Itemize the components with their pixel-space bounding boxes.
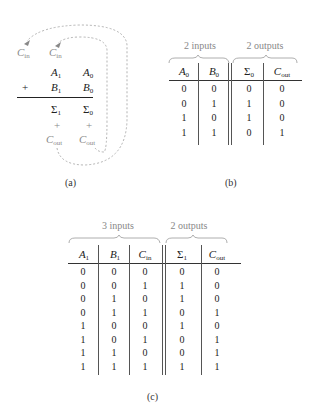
cell: 0	[104, 266, 124, 277]
header-sigma1: Σ1	[167, 248, 197, 262]
cell: 1	[172, 361, 192, 372]
header-a1: A1	[69, 248, 99, 262]
cell: 0	[104, 280, 124, 291]
col-divider-c1	[98, 245, 99, 375]
cell: 1	[73, 361, 93, 372]
cell: 1	[172, 320, 192, 331]
cell: 0	[104, 334, 124, 345]
cell: 0	[73, 307, 93, 318]
cell: 0	[207, 293, 227, 304]
cell: 1	[172, 293, 192, 304]
cell: 1	[104, 347, 124, 358]
cell: 1	[207, 361, 227, 372]
cell: 0	[104, 320, 124, 331]
cell: 0	[207, 280, 227, 291]
cell: 0	[207, 266, 227, 277]
cell: 1	[73, 320, 93, 331]
cell: 0	[172, 334, 192, 345]
cell: 1	[207, 307, 227, 318]
cell: 0	[172, 307, 192, 318]
header-rule-c	[68, 263, 241, 264]
header-cout: Cout	[199, 248, 235, 262]
col-divider-c2	[129, 245, 130, 375]
cell: 1	[135, 307, 155, 318]
cell: 1	[172, 280, 192, 291]
cell: 1	[135, 361, 155, 372]
cell: 0	[135, 293, 155, 304]
cell: 1	[207, 347, 227, 358]
cell: 0	[73, 280, 93, 291]
cell: 1	[73, 347, 93, 358]
cell: 0	[73, 293, 93, 304]
cell: 1	[207, 334, 227, 345]
col-divider-c3a	[162, 245, 163, 375]
col-divider-c4	[201, 245, 202, 375]
cell: 1	[73, 334, 93, 345]
header-b1: B1	[100, 248, 130, 262]
cell: 0	[135, 266, 155, 277]
cell: 0	[135, 347, 155, 358]
cell: 0	[73, 266, 93, 277]
cell: 1	[104, 361, 124, 372]
cell: 1	[135, 280, 155, 291]
header-cin: Cin	[130, 248, 160, 262]
cell: 1	[104, 307, 124, 318]
cell: 0	[172, 347, 192, 358]
cell: 1	[135, 334, 155, 345]
cell: 0	[172, 266, 192, 277]
col-divider-c3b	[165, 245, 166, 375]
cell: 1	[104, 293, 124, 304]
cell: 0	[135, 320, 155, 331]
caption-c: (c)	[147, 391, 158, 402]
cell: 0	[207, 320, 227, 331]
